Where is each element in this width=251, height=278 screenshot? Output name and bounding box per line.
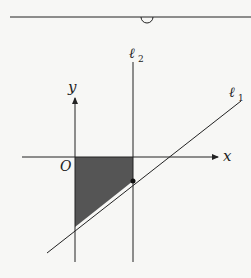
svg-text:ℓ: ℓ bbox=[129, 45, 135, 61]
origin-label: O bbox=[60, 158, 72, 174]
svg-text:ℓ: ℓ bbox=[229, 84, 235, 100]
line-l2-label: ℓ 2 bbox=[129, 45, 144, 64]
svg-text:1: 1 bbox=[238, 93, 244, 103]
x-axis-label: x bbox=[223, 147, 232, 165]
diagram-canvas: y x O ℓ 2 ℓ 1 bbox=[0, 0, 251, 278]
y-axis-label: y bbox=[67, 78, 77, 96]
line-l1-label: ℓ 1 bbox=[229, 84, 244, 103]
svg-text:2: 2 bbox=[138, 54, 144, 64]
top-rule bbox=[10, 17, 251, 23]
coordinate-diagram: y x O ℓ 2 ℓ 1 bbox=[0, 0, 251, 278]
intersection-point bbox=[131, 179, 136, 184]
